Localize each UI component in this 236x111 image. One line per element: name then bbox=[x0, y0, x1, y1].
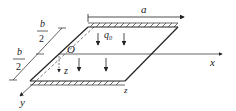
label-x: x bbox=[209, 56, 215, 68]
z-axis: z bbox=[59, 56, 68, 76]
label-b-den-top: 2 bbox=[39, 33, 44, 44]
label-b-num-bottom: b bbox=[17, 46, 22, 57]
label-b-num-top: b bbox=[40, 18, 45, 29]
label-a: a bbox=[141, 3, 147, 15]
label-q0: q₀ bbox=[104, 29, 113, 40]
load-arrows bbox=[79, 33, 124, 71]
label-z: z bbox=[63, 65, 68, 76]
label-y: y bbox=[19, 96, 25, 108]
dimension-a: a bbox=[88, 3, 184, 22]
label-z-edge: z bbox=[123, 85, 128, 95]
plate-diagram: a x y b 2 b 2 O q₀ z z bbox=[0, 0, 236, 111]
label-origin: O bbox=[67, 43, 75, 55]
label-b-den-bottom: 2 bbox=[16, 61, 21, 72]
dimension-b: b 2 b 2 bbox=[9, 18, 66, 80]
y-axis: y bbox=[19, 27, 94, 108]
